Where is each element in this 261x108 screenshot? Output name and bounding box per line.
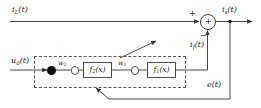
label-error-signal: e(t)	[207, 81, 221, 89]
hidden-node-2	[131, 66, 140, 75]
hidden-node-1	[71, 66, 80, 75]
diagram-canvas: + + − f2(x) f1(x) w2 w1 iL(t) is(t) if(t…	[0, 0, 261, 108]
label-filter-current: if(t)	[190, 41, 204, 50]
weight-label-w2: w2	[58, 60, 67, 68]
label-source-current: is(t)	[222, 6, 237, 15]
activation-block-f1-label: f1(x)	[153, 65, 169, 74]
label-input-signal: u0(t)	[11, 57, 29, 66]
weight-label-w1: w1	[118, 60, 127, 68]
summing-positive-sign: +	[189, 10, 196, 18]
wire-error-into-block	[96, 88, 109, 99]
activation-block-f2: f2(x)	[83, 62, 112, 78]
activation-block-f2-label: f2(x)	[89, 65, 105, 74]
input-node	[47, 66, 56, 75]
summing-negative-sign: −	[200, 32, 207, 40]
summing-junction-operator: +	[205, 18, 212, 26]
label-load-current: iL(t)	[12, 6, 28, 15]
wiring-layer	[0, 0, 261, 108]
activation-block-f1: f1(x)	[147, 62, 176, 78]
